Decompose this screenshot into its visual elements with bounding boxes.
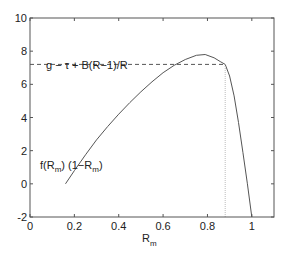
- y-tick-label: 8: [21, 45, 27, 57]
- x-tick-label: 0.8: [200, 220, 215, 232]
- y-tick-label: -2: [17, 211, 27, 223]
- y-tick-label: 10: [15, 12, 27, 24]
- dashed-line-annotation: g − τ + B(R−1)/R: [46, 59, 128, 71]
- x-tick-label: 0.4: [111, 220, 126, 232]
- y-tick-label: 0: [21, 178, 27, 190]
- x-tick-label: 0: [27, 220, 33, 232]
- y-tick-label: 6: [21, 78, 27, 90]
- y-tick-label: 4: [21, 112, 27, 124]
- curve-annotation: f(Rm) (1−Rm): [40, 159, 103, 174]
- ticks: 00.20.40.60.81-20246810: [15, 12, 274, 232]
- x-tick-label: 0.2: [67, 220, 82, 232]
- y-tick-label: 2: [21, 145, 27, 157]
- chart: 00.20.40.60.81-20246810 g − τ + B(R−1)/R…: [0, 0, 289, 255]
- x-tick-label: 0.6: [155, 220, 170, 232]
- x-axis-label: Rm: [142, 232, 157, 248]
- x-tick-label: 1: [249, 220, 255, 232]
- series-solid-line: [66, 55, 252, 218]
- plot-area: [30, 55, 252, 218]
